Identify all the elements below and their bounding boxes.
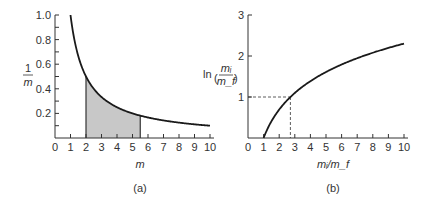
x-tick-label: 8 xyxy=(370,141,376,153)
svg-text:): ) xyxy=(234,72,238,84)
panel-label: (b) xyxy=(326,182,339,194)
x-tick-label: 9 xyxy=(191,141,197,153)
y-tick-label: 0.6 xyxy=(36,58,51,70)
chart-figure: 0123456789100.20.40.60.81.0m(a)1m0123456… xyxy=(0,0,429,204)
y-tick-label: 1 xyxy=(238,91,244,103)
x-tick-label: 9 xyxy=(385,141,391,153)
x-tick-label: 7 xyxy=(160,141,166,153)
panel-a: 0123456789100.20.40.60.81.0m(a)1m xyxy=(23,9,216,194)
x-tick-label: 6 xyxy=(145,141,151,153)
panel-b: 012345678910123mᵢ/m_f(b)ln(mᵢm_f) xyxy=(203,9,410,194)
x-tick-label: 10 xyxy=(398,141,410,153)
y-tick-label: 0.2 xyxy=(36,107,51,119)
svg-text:mᵢ: mᵢ xyxy=(221,62,232,74)
x-tick-label: 4 xyxy=(307,141,313,153)
curve xyxy=(264,44,404,138)
x-tick-label: 10 xyxy=(204,141,216,153)
x-axis-label: mᵢ/m_f xyxy=(317,158,350,170)
x-tick-label: 3 xyxy=(98,141,104,153)
svg-text:ln: ln xyxy=(203,68,212,80)
x-tick-label: 7 xyxy=(354,141,360,153)
x-tick-label: 6 xyxy=(339,141,345,153)
x-tick-label: 1 xyxy=(67,141,73,153)
x-tick-label: 5 xyxy=(323,141,329,153)
x-tick-label: 1 xyxy=(261,141,267,153)
x-tick-label: 4 xyxy=(114,141,120,153)
x-tick-label: 0 xyxy=(52,141,58,153)
shaded-area xyxy=(86,77,140,139)
y-tick-label: 0.8 xyxy=(36,34,51,46)
x-tick-label: 2 xyxy=(83,141,89,153)
y-axis-label: ln(mᵢm_f) xyxy=(203,62,238,87)
y-axis-label-den: m xyxy=(23,76,32,88)
y-tick-label: 1.0 xyxy=(36,9,51,21)
x-axis-label: m xyxy=(135,158,144,170)
x-tick-label: 0 xyxy=(245,141,251,153)
x-tick-label: 2 xyxy=(276,141,282,153)
y-axis-label-num: 1 xyxy=(25,62,31,74)
y-tick-label: 3 xyxy=(238,9,244,21)
x-tick-label: 5 xyxy=(129,141,135,153)
x-tick-label: 3 xyxy=(292,141,298,153)
x-tick-label: 8 xyxy=(176,141,182,153)
y-tick-label: 2 xyxy=(238,50,244,62)
y-tick-label: 0.4 xyxy=(36,83,51,95)
panel-label: (a) xyxy=(133,182,146,194)
